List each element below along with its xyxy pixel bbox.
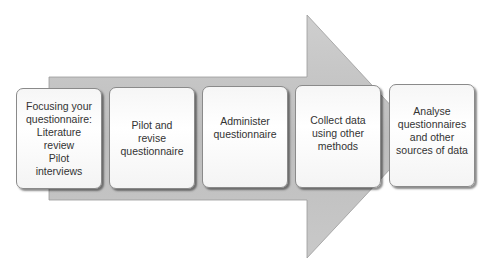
step-2-label: Pilot and revise questionnaire: [120, 119, 183, 158]
step-5-box: Analyse questionnaires and other sources…: [389, 84, 475, 187]
step-3-box: Administer questionnaire: [202, 86, 288, 188]
step-4-label: Collect data using other methods: [310, 114, 365, 153]
step-1-box: Focusing your questionnaire: Literature …: [16, 88, 102, 189]
step-4-box: Collect data using other methods: [295, 85, 381, 188]
step-3-label: Administer questionnaire: [213, 115, 276, 141]
step-1-label: Focusing your questionnaire: Literature …: [26, 100, 92, 178]
step-5-label: Analyse questionnaires and other sources…: [396, 105, 468, 157]
step-2-box: Pilot and revise questionnaire: [109, 87, 195, 189]
